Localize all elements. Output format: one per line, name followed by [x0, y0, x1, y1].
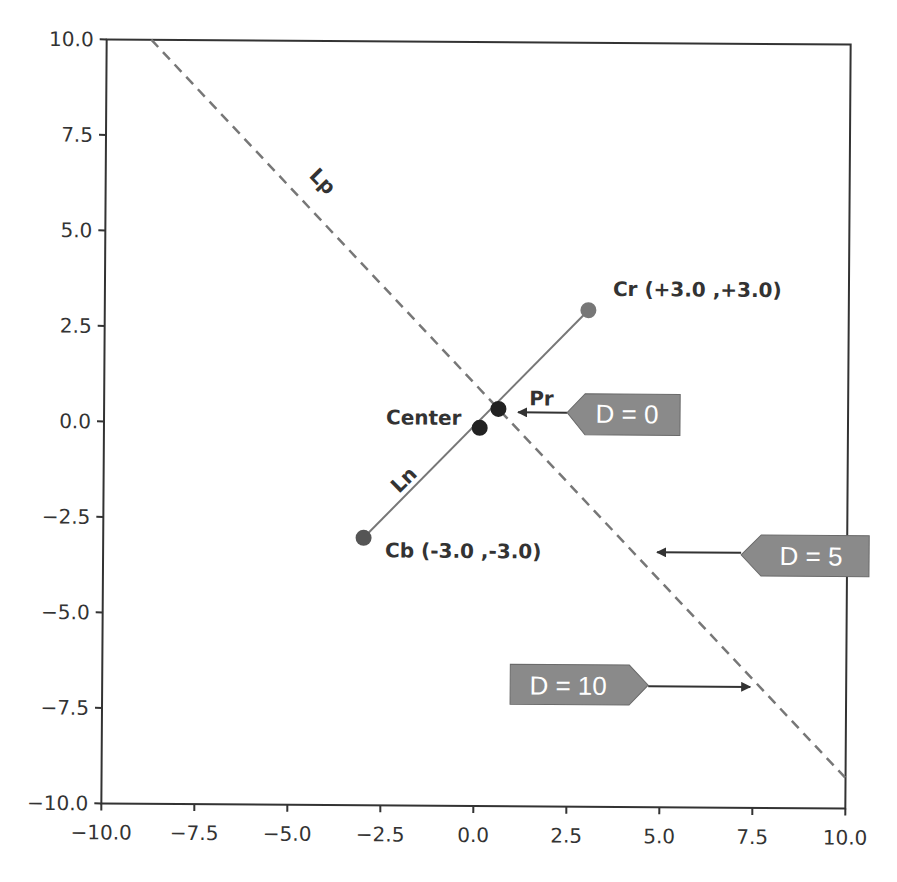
- x-tick-label: 7.5: [736, 825, 768, 849]
- x-tick-label: −5.0: [263, 822, 312, 846]
- pr-point: [490, 401, 506, 417]
- y-tick-label: 10.0: [49, 27, 94, 51]
- y-tick-label: 2.5: [60, 314, 92, 338]
- x-tick-label: 10.0: [823, 825, 868, 849]
- x-tick-label: −10.0: [70, 820, 131, 844]
- x-tick-label: −7.5: [170, 821, 219, 845]
- y-tick-label: 5.0: [60, 218, 92, 242]
- d5-arrow: [657, 552, 741, 553]
- center-point: [472, 420, 488, 436]
- y-tick-label: 7.5: [61, 123, 93, 147]
- y-tick-label: −2.5: [42, 504, 91, 528]
- d5-tag-text: D = 5: [780, 541, 843, 571]
- x-tick-label: 5.0: [643, 824, 675, 848]
- y-tick-label: −7.5: [40, 695, 89, 719]
- y-axis-ticks: 10.07.55.02.50.0−2.5−5.0−7.5−10.0: [27, 27, 107, 815]
- lp-label: Lp: [305, 163, 341, 199]
- x-tick-label: 2.5: [550, 824, 582, 848]
- y-tick-label: 0.0: [59, 409, 91, 433]
- annotation-d10: D = 10: [510, 664, 750, 706]
- pr-label: Pr: [529, 386, 554, 410]
- x-axis-ticks: −10.0−7.5−5.0−2.50.02.55.07.510.0: [70, 803, 867, 850]
- d10-arrow: [648, 686, 750, 687]
- cb-point: [356, 530, 372, 546]
- ln-label: Ln: [386, 462, 422, 498]
- x-tick-label: −2.5: [356, 822, 405, 846]
- center-label: Center: [386, 405, 462, 430]
- y-tick-label: −10.0: [27, 791, 88, 815]
- x-tick-label: 0.0: [457, 823, 489, 847]
- d0-tag-text: D = 0: [596, 399, 659, 429]
- annotation-d5: D = 5: [657, 534, 869, 576]
- d10-tag-text: D = 10: [529, 670, 607, 701]
- y-tick-label: −5.0: [41, 600, 90, 624]
- cb-label: Cb (-3.0 ,-3.0): [385, 538, 541, 563]
- cr-label: Cr (+3.0 ,+3.0): [613, 277, 782, 302]
- cr-point: [580, 302, 596, 318]
- chart: −10.0−7.5−5.0−2.50.02.55.07.510.0 10.07.…: [0, 0, 897, 882]
